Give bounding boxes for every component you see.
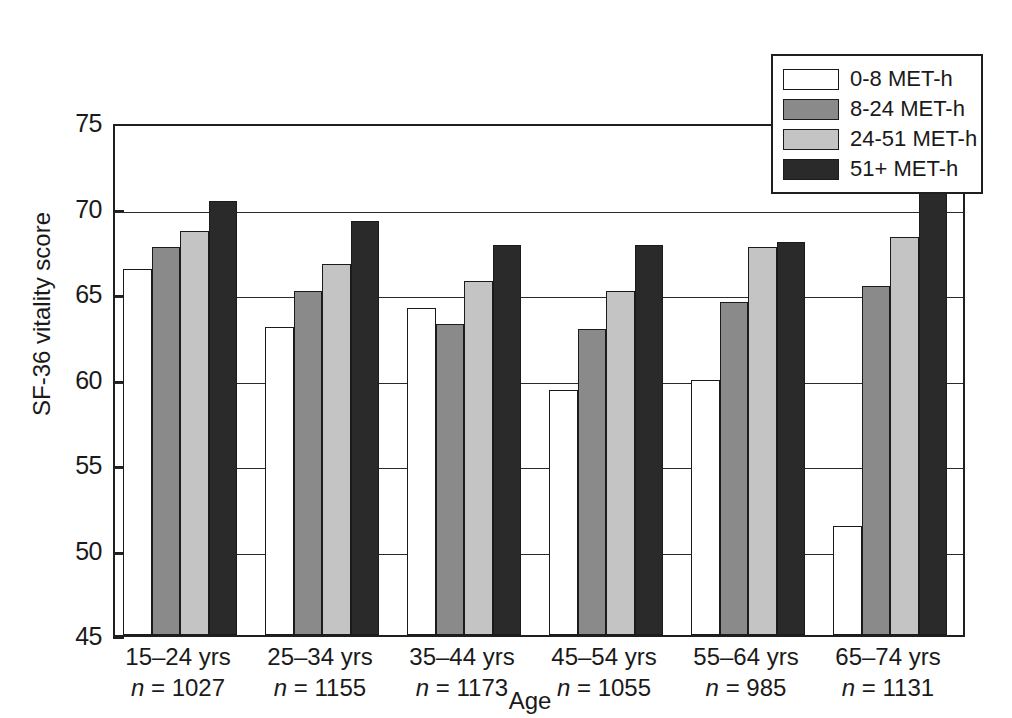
y-tick-label-65: 65 [44, 282, 102, 307]
legend-swatch-1 [783, 69, 839, 90]
y-tick-label-60: 60 [44, 368, 102, 393]
bar-6574-series-1 [833, 526, 862, 635]
bar-2534-series-2 [294, 291, 323, 635]
bar-5564-series-1 [691, 380, 720, 635]
bar-4554-series-3 [606, 291, 635, 635]
legend: 0-8 MET-h8-24 MET-h24-51 MET-h51+ MET-h [771, 54, 983, 194]
gridline-65 [115, 297, 963, 298]
legend-label-4: 51+ MET-h [850, 158, 958, 180]
legend-label-2: 8-24 MET-h [850, 98, 965, 120]
bar-2534-series-4 [351, 221, 380, 635]
bar-3544-series-1 [407, 308, 436, 635]
bar-4554-series-2 [578, 329, 607, 635]
legend-swatch-3 [783, 129, 839, 150]
bar-3544-series-3 [464, 281, 493, 635]
y-tick-mark-45 [113, 637, 124, 639]
bar-3544-series-2 [436, 324, 465, 635]
bar-5564-series-3 [748, 247, 777, 635]
bar-2534-series-1 [265, 327, 294, 635]
bar-6574-series-4 [919, 184, 948, 635]
plot-area [113, 124, 965, 637]
bar-4554-series-1 [549, 390, 578, 635]
bar-3544-series-4 [493, 245, 522, 635]
bar-5564-series-4 [777, 242, 806, 635]
y-tick-mark-70 [113, 210, 124, 212]
y-tick-label-75: 75 [44, 111, 102, 136]
y-tick-label-50: 50 [44, 539, 102, 564]
bar-2534-series-3 [322, 264, 351, 635]
legend-item-3: 24-51 MET-h [783, 124, 971, 154]
bar-1524-series-1 [123, 269, 152, 635]
vitality-score-bar-chart: SF-36 vitality score 45505560657075 15–2… [0, 0, 1012, 718]
bar-4554-series-4 [635, 245, 664, 635]
y-tick-mark-75 [113, 124, 124, 126]
y-axis-tick-labels: 45505560657075 [40, 124, 102, 637]
gridline-70 [115, 212, 963, 213]
bar-1524-series-2 [152, 247, 181, 635]
y-tick-label-70: 70 [44, 197, 102, 222]
bar-1524-series-4 [209, 201, 238, 635]
legend-label-1: 0-8 MET-h [850, 68, 953, 90]
legend-item-1: 0-8 MET-h [783, 64, 971, 94]
legend-item-2: 8-24 MET-h [783, 94, 971, 124]
bar-5564-series-2 [720, 302, 749, 635]
y-tick-label-55: 55 [44, 453, 102, 478]
legend-item-4: 51+ MET-h [783, 154, 971, 184]
gridline-60 [115, 383, 963, 384]
x-axis-title: Age [0, 687, 1012, 715]
x-tick-age-label: 65–74 yrs [798, 641, 978, 672]
bar-6574-series-3 [890, 237, 919, 635]
bar-6574-series-2 [862, 286, 891, 635]
legend-swatch-2 [783, 99, 839, 120]
x-axis-title-text: Age [509, 687, 552, 715]
legend-swatch-4 [783, 159, 839, 180]
legend-label-3: 24-51 MET-h [850, 128, 977, 150]
bar-1524-series-3 [180, 231, 209, 635]
gridline-55 [115, 468, 963, 469]
